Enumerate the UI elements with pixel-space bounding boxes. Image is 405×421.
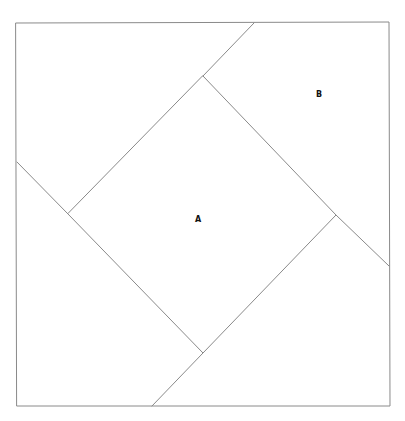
- extension-bottom: [152, 353, 203, 406]
- extension-right: [336, 215, 389, 266]
- extension-top: [203, 23, 254, 76]
- extension-left: [17, 162, 68, 214]
- inner-square-a: [68, 76, 336, 353]
- square-dissection-diagram: A B: [0, 0, 405, 421]
- label-a: A: [195, 215, 202, 224]
- outer-square: [16, 22, 390, 406]
- label-b: B: [316, 90, 322, 99]
